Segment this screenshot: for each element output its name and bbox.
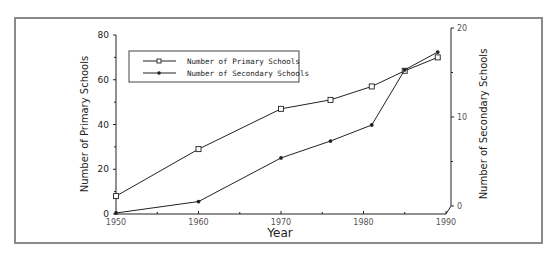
filled-dot-marker-icon xyxy=(157,71,161,75)
right-y-ticks: 01020 xyxy=(451,24,467,211)
left-y-tick-label: 20 xyxy=(98,164,110,174)
legend-label-primary: Number of Primary Schools xyxy=(187,57,300,66)
left-y-tick-label: 60 xyxy=(98,75,110,85)
data-point-dot xyxy=(114,211,118,215)
legend-label-secondary: Number of Secondary Schools xyxy=(187,69,309,78)
data-point-square xyxy=(435,55,440,60)
x-tick-label: 1950 xyxy=(106,218,126,227)
right-y-tick-label: 0 xyxy=(457,202,462,211)
chart: 020406080 01020 19501960197019801990 Num… xyxy=(0,0,556,257)
open-square-marker-icon xyxy=(157,59,161,63)
data-point-dot xyxy=(403,68,407,72)
data-point-square xyxy=(114,194,119,199)
right-y-axis-label: Number of Secondary Schools xyxy=(478,49,489,200)
axis-break-connector xyxy=(446,206,451,214)
legend: Number of Primary Schools Number of Seco… xyxy=(129,51,309,82)
data-point-square xyxy=(279,106,284,111)
left-y-ticks: 020406080 xyxy=(98,30,116,219)
data-point-square xyxy=(369,84,374,89)
x-ticks: 19501960197019801990 xyxy=(106,211,456,227)
left-y-tick-label: 80 xyxy=(98,30,110,40)
x-tick-label: 1960 xyxy=(188,218,208,227)
data-point-square xyxy=(196,147,201,152)
data-point-dot xyxy=(370,123,374,127)
right-y-tick-label: 20 xyxy=(457,24,467,33)
data-point-dot xyxy=(436,50,440,54)
x-tick-label: 1990 xyxy=(436,218,456,227)
left-y-axis-label: Number of Primary Schools xyxy=(79,56,90,192)
data-point-dot xyxy=(197,200,201,204)
data-point-dot xyxy=(279,156,283,160)
left-y-tick-label: 40 xyxy=(98,120,110,130)
data-point-dot xyxy=(329,139,333,143)
x-tick-label: 1980 xyxy=(353,218,373,227)
right-y-tick-label: 10 xyxy=(457,113,467,122)
data-point-square xyxy=(328,97,333,102)
x-axis-label: Year xyxy=(266,226,292,240)
